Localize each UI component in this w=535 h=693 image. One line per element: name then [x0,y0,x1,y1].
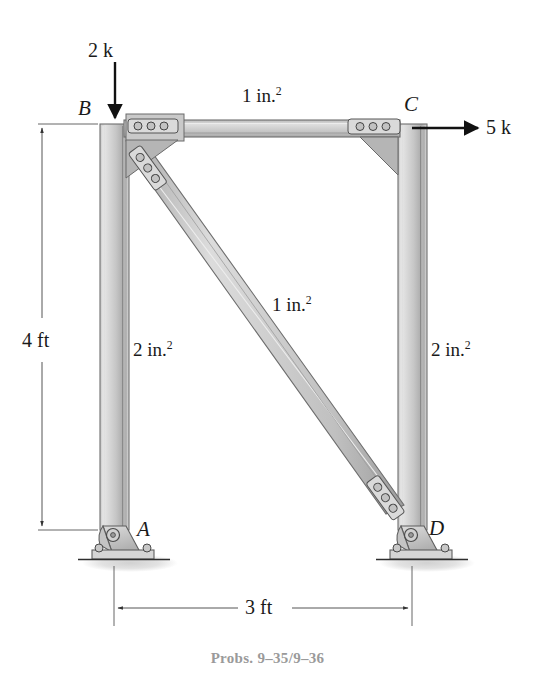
pin-support-d [376,526,468,560]
area-label-right-column-text: 2 in. [431,339,465,360]
load-label-2k: 2 k [88,40,113,60]
area-label-diagonal-text: 1 in. [272,294,306,315]
gusset-plate-joint-b [126,114,184,191]
gusset-plate-joint-c [348,119,400,175]
figure-caption: Probs. 9–35/9–36 [0,650,535,667]
area-label-left-column: 2 in.2 [133,340,173,359]
load-label-5k: 5 k [486,117,511,137]
pin-support-a [78,526,170,560]
left-column-AB [100,124,129,530]
area-label-diagonal: 1 in.2 [272,295,312,314]
dimension-label-height: 4 ft [22,330,49,350]
area-label-diagonal-exponent: 2 [306,294,312,307]
area-label-left-column-text: 2 in. [133,339,167,360]
joint-label-d: D [429,518,444,539]
area-label-top-chord-text: 1 in. [242,85,276,106]
area-label-right-column-exponent: 2 [465,339,471,352]
area-label-right-column: 2 in.2 [431,340,471,359]
joint-label-a: A [137,519,150,540]
diagonal-BD [128,144,404,514]
area-label-left-column-exponent: 2 [167,339,173,352]
joint-label-c: C [404,94,418,115]
area-label-top-chord: 1 in.2 [242,86,282,105]
joint-label-b: B [78,98,91,119]
dimension-label-span: 3 ft [245,597,272,617]
area-label-top-chord-exponent: 2 [276,85,282,98]
right-column-CD [398,124,427,530]
height-dimension-line [38,124,98,530]
figure-container: B C A D 2 k 5 k 1 in.2 1 in.2 2 in.2 2 i… [0,0,535,693]
